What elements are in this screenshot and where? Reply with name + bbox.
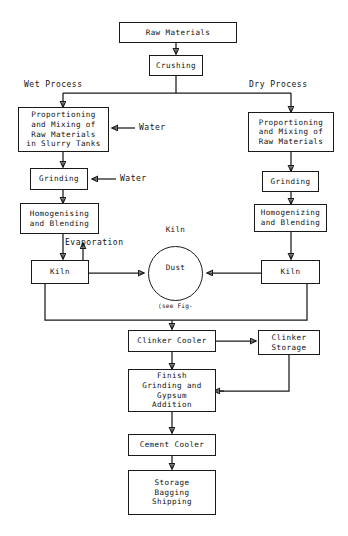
node-raw-materials[interactable]: Raw Materials <box>119 22 237 43</box>
node-wet-kiln[interactable]: Kiln <box>31 260 89 284</box>
node-storage-bagging-shipping[interactable]: Storage Bagging Shipping <box>128 470 216 515</box>
label-dry-process: Dry Process <box>249 80 307 90</box>
node-dry-kiln[interactable]: Kiln <box>261 260 320 284</box>
node-dry-grinding[interactable]: Grinding <box>262 171 319 192</box>
node-dry-proportioning[interactable]: Proportioning and Mixing of Raw Material… <box>248 112 334 152</box>
connector-storage-to-finish <box>220 355 289 391</box>
node-crushing[interactable]: Crushing <box>149 55 203 76</box>
label-water-slurry: Water <box>139 123 166 133</box>
label-wet-process: Wet Process <box>24 80 82 90</box>
flowchart-canvas: Raw Materials Crushing Wet Process Dry P… <box>0 0 348 536</box>
node-kiln-dust[interactable]: Kiln Dust (see Fig- ure 2B) <box>148 246 203 301</box>
node-wet-homogenizing[interactable]: Homogenising and Blending <box>20 203 99 234</box>
label-water-grinding: Water <box>120 174 147 184</box>
label-evaporation: Evaporation <box>65 238 123 248</box>
node-cement-cooler[interactable]: Cement Cooler <box>128 434 216 456</box>
node-clinker-cooler[interactable]: Clinker Cooler <box>128 330 216 352</box>
kiln-dust-line-3: (see Fig- <box>158 302 193 309</box>
node-wet-grinding[interactable]: Grinding <box>30 168 88 190</box>
kiln-dust-line-2: Dust <box>166 263 186 272</box>
node-clinker-storage[interactable]: Clinker Storage <box>258 330 320 355</box>
kiln-dust-line-1: Kiln <box>166 225 186 234</box>
node-wet-proportioning[interactable]: Proportioning and Mixing of Raw Material… <box>18 107 109 152</box>
node-dry-homogenizing[interactable]: Homogenizing and Blending <box>254 204 327 232</box>
node-finish-grinding[interactable]: Finish Grinding and Gypsum Addition <box>128 369 216 412</box>
